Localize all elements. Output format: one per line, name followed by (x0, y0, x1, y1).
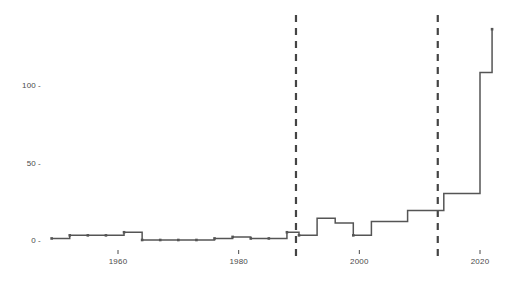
chart-plot-area (0, 0, 509, 288)
data-point-marker (231, 236, 234, 239)
y-axis-tick-label-50: 50 (8, 158, 36, 167)
series-group (50, 28, 493, 241)
data-point-marker (286, 231, 289, 234)
data-point-marker (195, 239, 198, 242)
data-point-marker (213, 237, 216, 240)
data-point-marker (177, 239, 180, 242)
step-line-count (52, 29, 492, 240)
axis-ticks-group (118, 250, 480, 254)
data-point-marker (141, 239, 144, 242)
data-point-marker (159, 239, 162, 242)
x-axis-ticks (118, 250, 480, 254)
y-axis-tick-mark: - (38, 81, 41, 90)
y-axis-tick-label-100: 100 (8, 81, 36, 90)
data-point-marker (249, 237, 252, 240)
chart-container: 0-50-100- 1960198020002020 (0, 0, 509, 288)
y-axis-tick-mark: - (38, 236, 41, 245)
x-axis-tick-label-1960: 1960 (109, 257, 128, 266)
y-axis-tick-label-0: 0 (8, 236, 36, 245)
data-point-marker (68, 234, 71, 237)
data-point-marker (50, 237, 53, 240)
x-axis-tick-label-2000: 2000 (350, 257, 369, 266)
data-point-marker (87, 234, 90, 237)
data-point-marker (123, 231, 126, 234)
data-point-markers (50, 28, 493, 241)
data-point-marker (268, 237, 271, 240)
data-point-marker (491, 28, 494, 31)
y-axis-tick-mark: - (38, 158, 41, 167)
x-axis-tick-label-1980: 1980 (229, 257, 248, 266)
data-point-marker (298, 234, 301, 237)
data-point-marker (105, 234, 108, 237)
data-point-marker (352, 234, 355, 237)
x-axis-tick-label-2020: 2020 (471, 257, 490, 266)
